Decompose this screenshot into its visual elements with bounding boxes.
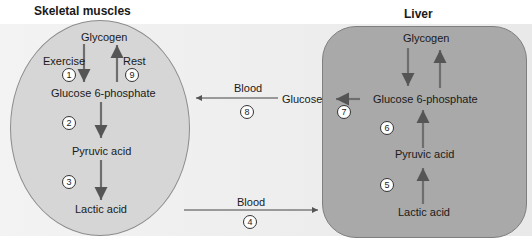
muscle-glycogen-label: Glycogen <box>81 31 127 43</box>
step-3-marker: 3 <box>62 175 76 189</box>
muscle-g6p-label: Glucose 6-phosphate <box>51 87 156 99</box>
step-9-marker: 9 <box>125 68 139 82</box>
glucose-label: Glucose <box>282 93 322 105</box>
exercise-label: Exercise <box>43 55 85 67</box>
liver-lactic-label: Lactic acid <box>398 206 450 218</box>
blood-label-bottom: Blood <box>237 196 265 208</box>
step-2-marker: 2 <box>62 116 76 130</box>
muscle-pyruvic-label: Pyruvic acid <box>72 145 131 157</box>
liver-pyruvic-label: Pyruvic acid <box>395 148 454 160</box>
step-8-marker: 8 <box>240 105 254 119</box>
blood-label-top: Blood <box>234 82 262 94</box>
muscle-lactic-label: Lactic acid <box>75 203 127 215</box>
step-4-marker: 4 <box>243 215 257 229</box>
step-7-marker: 7 <box>337 105 351 119</box>
liver-g6p-label: Glucose 6-phosphate <box>373 93 478 105</box>
step-1-marker: 1 <box>62 68 76 82</box>
rest-label: Rest <box>123 55 146 67</box>
step-5-marker: 5 <box>380 178 394 192</box>
liver-glycogen-label: Glycogen <box>403 32 449 44</box>
step-6-marker: 6 <box>380 121 394 135</box>
